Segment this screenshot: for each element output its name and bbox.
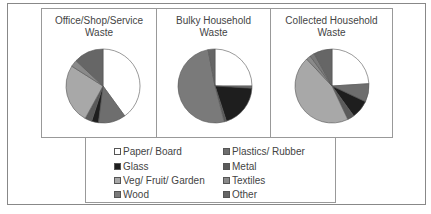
pie-chart-bulky	[176, 47, 254, 125]
pie-chart-office	[64, 47, 142, 125]
swatch-icon	[114, 177, 121, 184]
swatch-icon	[114, 191, 121, 198]
title-line: Office/Shop/Service	[42, 15, 156, 27]
legend-item-glass: Glass	[114, 161, 149, 173]
swatch-icon	[114, 148, 121, 155]
legend-label: Textiles	[232, 175, 265, 186]
title-line: Waste	[157, 27, 270, 39]
legend-item-veg: Veg/ Fruit/ Garden	[114, 175, 205, 187]
pie-chart-collected	[293, 47, 371, 125]
panel-collected-household: Collected Household Waste	[270, 8, 393, 138]
legend: Paper/ Board Glass Veg/ Fruit/ Garden Wo…	[85, 137, 336, 203]
swatch-icon	[223, 148, 230, 155]
legend-label: Plastics/ Rubber	[232, 146, 305, 157]
legend-label: Other	[232, 189, 257, 200]
panel-title: Office/Shop/Service Waste	[42, 15, 156, 39]
legend-label: Paper/ Board	[123, 146, 182, 157]
legend-item-metal: Metal	[223, 161, 256, 173]
panel-office-shop-service: Office/Shop/Service Waste	[41, 8, 157, 138]
title-line: Bulky Household	[157, 15, 270, 27]
pie-slice	[215, 49, 252, 86]
swatch-icon	[223, 163, 230, 170]
title-line: Waste	[271, 27, 392, 39]
legend-item-plastics: Plastics/ Rubber	[223, 146, 305, 158]
panel-title: Bulky Household Waste	[157, 15, 270, 39]
legend-label: Glass	[123, 161, 149, 172]
legend-item-wood: Wood	[114, 189, 149, 201]
legend-label: Wood	[123, 189, 149, 200]
pie-slice	[332, 49, 369, 86]
legend-item-other: Other	[223, 189, 257, 201]
swatch-icon	[223, 191, 230, 198]
legend-item-paper: Paper/ Board	[114, 146, 182, 158]
title-line: Collected Household	[271, 15, 392, 27]
swatch-icon	[223, 177, 230, 184]
panel-bulky-household: Bulky Household Waste	[156, 8, 271, 138]
panel-title: Collected Household Waste	[271, 15, 392, 39]
swatch-icon	[114, 163, 121, 170]
legend-label: Veg/ Fruit/ Garden	[123, 175, 205, 186]
legend-item-textiles: Textiles	[223, 175, 265, 187]
title-line: Waste	[42, 27, 156, 39]
legend-label: Metal	[232, 161, 256, 172]
